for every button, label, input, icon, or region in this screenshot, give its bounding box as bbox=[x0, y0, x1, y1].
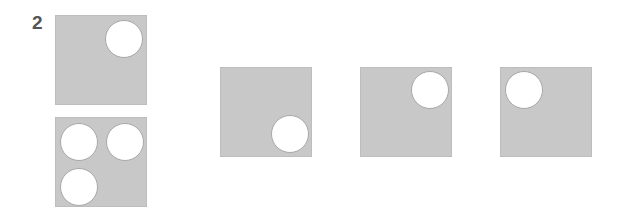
option-panel-b[interactable] bbox=[360, 67, 452, 157]
option-panel-a[interactable] bbox=[220, 67, 312, 157]
circle-hole-top-right bbox=[106, 123, 144, 161]
circle-hole-top-right bbox=[105, 20, 143, 58]
circle-hole-bottom-left bbox=[60, 168, 98, 206]
circle-hole-top-right bbox=[411, 71, 449, 109]
question-number: 2 bbox=[32, 12, 43, 34]
circle-hole-bottom-right bbox=[271, 115, 309, 153]
circle-hole-top-left bbox=[60, 123, 98, 161]
stimulus-panel-bottom bbox=[55, 117, 147, 207]
circle-hole-top-left bbox=[505, 71, 543, 109]
option-panel-c[interactable] bbox=[500, 67, 592, 157]
stimulus-panel-top bbox=[55, 15, 147, 105]
